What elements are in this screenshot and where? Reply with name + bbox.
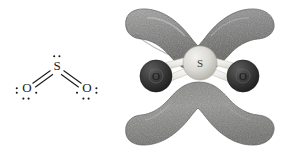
oxygen-left-atom-label: O — [152, 70, 160, 82]
lewis-atom-symbol-oxygen-right: O — [82, 80, 91, 95]
lewis-structure-svg: S O O — [0, 0, 125, 154]
sulfur-atom-sphere: S — [183, 46, 217, 80]
oxygen-left-atom-sphere: O — [140, 60, 172, 92]
orbital-model-panel: S O O — [125, 0, 282, 154]
sulfur-atom-label: S — [197, 57, 203, 69]
lone-pair-sulfur-top — [53, 55, 60, 57]
lewis-structure-panel: S O O — [0, 0, 125, 154]
lower-pi-orbital-lobe — [126, 82, 275, 145]
so2-bonding-figure: S O O — [0, 0, 282, 154]
bond-s-o-right-double — [61, 71, 82, 88]
lewis-atom-symbol-sulfur: S — [53, 58, 60, 73]
oxygen-right-atom-label: O — [239, 70, 247, 82]
bond-s-o-left-double — [33, 71, 54, 88]
orbital-model-svg: S O O — [125, 0, 282, 154]
lewis-atom-symbol-oxygen-left: O — [22, 80, 31, 95]
oxygen-right-atom-sphere: O — [227, 60, 259, 92]
